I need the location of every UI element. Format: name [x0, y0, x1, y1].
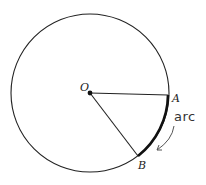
radius-ob [90, 93, 138, 156]
label-point-a: A [171, 92, 180, 105]
label-arc-annotation: arc [174, 109, 196, 124]
arc-ab [138, 95, 168, 156]
label-center-o: O [80, 81, 89, 94]
circle-diagram: O A B arc [0, 0, 206, 185]
radius-oa [90, 93, 168, 95]
label-point-b: B [137, 159, 146, 172]
